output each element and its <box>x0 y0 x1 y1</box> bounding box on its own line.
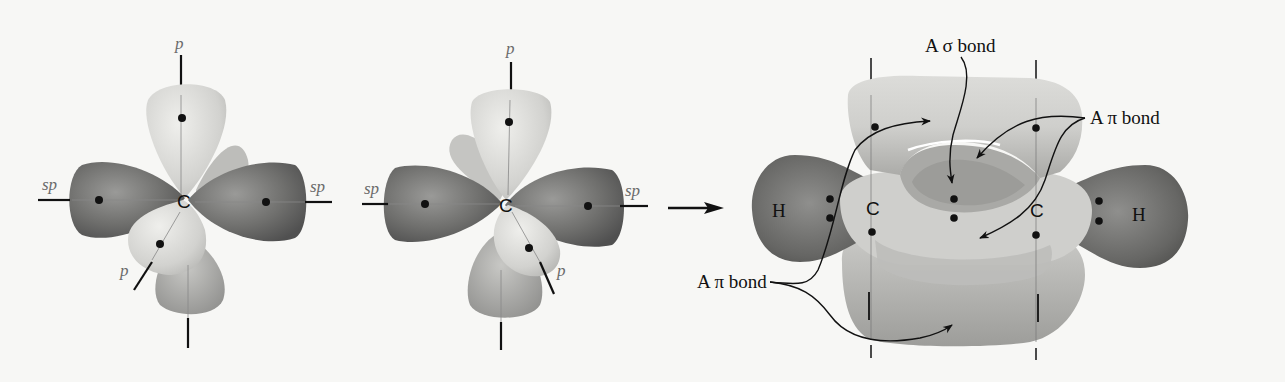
middle-p-front-label: p <box>557 262 566 279</box>
left-sp-left-label: sp <box>42 176 57 193</box>
left-carbon-bonded-label: C <box>866 199 880 218</box>
reaction-arrow <box>668 202 724 214</box>
acetylene-molecule <box>752 58 1188 360</box>
orbital-diagram-canvas <box>0 0 1285 382</box>
middle-sp-right-label: sp <box>625 182 640 199</box>
sigma-bond-label: A σ bond <box>925 36 995 55</box>
left-p-top-label: p <box>175 35 184 52</box>
left-carbon-label: C <box>177 192 191 211</box>
middle-sp-left-label: sp <box>364 180 379 197</box>
middle-carbon-label: C <box>499 196 513 215</box>
pi-bond-label-right: A π bond <box>1090 108 1160 127</box>
left-sp-right-label: sp <box>310 178 325 195</box>
left-p-front-label: p <box>120 262 129 279</box>
left-hydrogen-label: H <box>772 201 786 220</box>
pi-bond-label-left: A π bond <box>697 272 767 291</box>
right-carbon-bonded-label: C <box>1030 201 1044 220</box>
middle-p-top-label: p <box>506 40 515 57</box>
right-hydrogen-label: H <box>1132 205 1146 224</box>
